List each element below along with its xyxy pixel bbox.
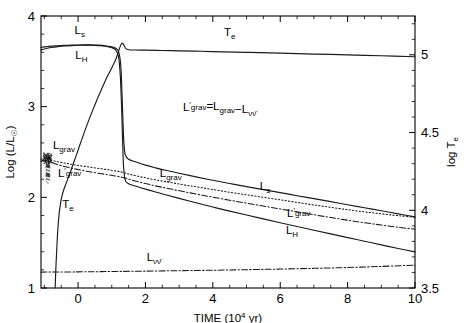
y-tick-label-left: 3 xyxy=(28,99,35,114)
y-tick-label-left: 2 xyxy=(28,190,35,205)
x-tick-label: 2 xyxy=(142,291,149,306)
y-tick-label-left: 1 xyxy=(28,281,35,296)
x-tick-label: 0 xyxy=(74,291,81,306)
line-chart: 024681012343.544.55LsLsLHLHLgravLgravL′g… xyxy=(0,0,464,323)
y-tick-label-right: 4 xyxy=(421,203,428,218)
y-tick-label-right: 3.5 xyxy=(421,281,439,296)
x-tick-label: 6 xyxy=(277,291,284,306)
x-tick-label: 8 xyxy=(344,291,351,306)
y-tick-label-right: 4.5 xyxy=(421,125,439,140)
figure-panel: 024681012343.544.55LsLsLHLHLgravLgravL′g… xyxy=(0,0,464,323)
chart-background xyxy=(0,0,464,323)
x-tick-label: 4 xyxy=(209,291,216,306)
y-tick-label-left: 4 xyxy=(28,9,35,24)
x-axis-label: TIME (104 yr) xyxy=(194,311,263,323)
y-tick-label-right: 5 xyxy=(421,47,428,62)
